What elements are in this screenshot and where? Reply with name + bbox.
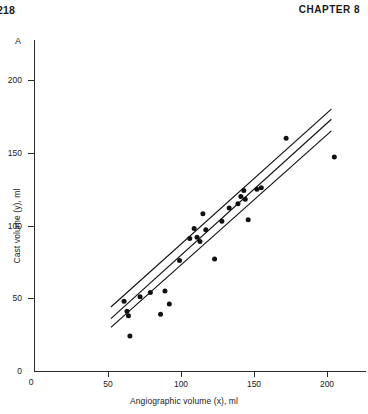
figure-panel-a: A 050100150200 050100150200 Angiographic… <box>0 0 368 414</box>
x-axis-title: Angiographic volume (x), ml <box>0 396 368 406</box>
data-point <box>254 187 259 192</box>
data-point <box>259 185 264 190</box>
data-point <box>162 288 167 293</box>
data-point <box>158 312 163 317</box>
data-point <box>212 256 217 261</box>
x-tick-label-100: 100 <box>166 379 196 389</box>
data-point <box>243 197 248 202</box>
fit-lines-group <box>111 109 331 327</box>
data-point <box>219 219 224 224</box>
data-point <box>241 188 246 193</box>
data-point <box>227 206 232 211</box>
data-point <box>195 235 200 240</box>
data-point <box>203 227 208 232</box>
x-tick-label-0: 0 <box>16 377 46 387</box>
axes <box>35 40 367 372</box>
data-point <box>126 313 131 318</box>
data-point <box>167 302 172 307</box>
data-point <box>124 309 129 314</box>
data-point <box>127 334 132 339</box>
data-point <box>177 258 182 263</box>
data-point <box>122 299 127 304</box>
y-axis-ticks <box>28 81 35 299</box>
data-point <box>235 201 240 206</box>
data-point <box>238 194 243 199</box>
data-point <box>138 294 143 299</box>
scatter-plot-canvas <box>0 0 368 414</box>
x-tick-label-200: 200 <box>312 379 342 389</box>
data-point <box>200 211 205 216</box>
y-tick-label-0: 0 <box>0 366 22 376</box>
y-tick-label-200: 200 <box>0 75 22 85</box>
y-axis-title: Cast volume (y), ml <box>12 136 22 316</box>
data-point <box>246 217 251 222</box>
data-point <box>284 136 289 141</box>
x-tick-label-150: 150 <box>239 379 269 389</box>
x-tick-label-50: 50 <box>93 379 123 389</box>
data-point <box>187 236 192 241</box>
x-axis-ticks <box>109 372 328 378</box>
data-point <box>148 290 153 295</box>
data-point <box>332 155 337 160</box>
data-point <box>197 239 202 244</box>
confidence-lower <box>111 131 331 327</box>
data-point <box>192 226 197 231</box>
confidence-upper <box>111 109 331 307</box>
data-points-group <box>122 136 337 339</box>
